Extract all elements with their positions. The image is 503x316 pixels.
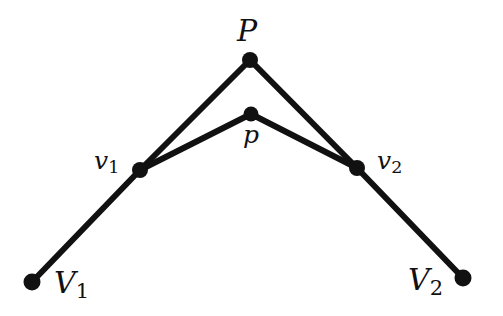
label-v2-text: v [377, 146, 391, 175]
label-P: P [237, 16, 257, 46]
label-V2-sub: 2 [430, 276, 443, 300]
node-V2 [455, 270, 472, 287]
edge-v1-p [140, 114, 251, 170]
label-p: p [243, 122, 259, 147]
label-v1-sub: 1 [108, 157, 119, 177]
label-P-text: P [237, 13, 257, 48]
edge-V1-v1 [32, 170, 140, 282]
label-V2-text: V [408, 262, 430, 297]
node-v1 [132, 162, 148, 178]
edge-v1-P [140, 60, 250, 170]
label-V1-sub: 1 [76, 279, 89, 303]
geometry-diagram: P p v1 v2 V1 V2 [0, 0, 503, 316]
node-V1 [24, 274, 41, 291]
label-v2-sub: 2 [391, 157, 402, 177]
node-P [242, 52, 258, 68]
label-v1: v1 [94, 148, 119, 177]
label-v2: v2 [377, 148, 402, 177]
label-V2: V2 [408, 265, 443, 299]
edge-P-v2 [250, 60, 357, 168]
label-V1: V1 [54, 268, 89, 302]
label-v1-text: v [94, 146, 108, 175]
node-v2 [349, 160, 365, 176]
label-V1-text: V [54, 265, 76, 300]
label-p-text: p [243, 120, 259, 149]
edge-p-v2 [251, 114, 357, 168]
